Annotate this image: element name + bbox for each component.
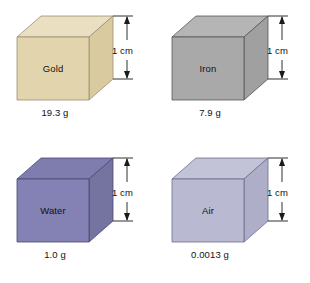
cube-cell-gold: Gold 1 cm 19.3 g: [0, 0, 155, 141]
cube-face-front-gold: [17, 37, 89, 100]
cube-dimension-label-iron: 1 cm: [267, 45, 288, 56]
cube-drawing-water: [0, 142, 155, 283]
cube-drawing-gold: [0, 0, 155, 141]
cube-face-front-iron: [172, 37, 244, 100]
cube-dimension-label-water: 1 cm: [112, 187, 133, 198]
cube-drawing-iron: [155, 0, 310, 141]
cube-mass-label-iron: 7.9 g: [172, 107, 248, 118]
cube-mass-label-air: 0.0013 g: [163, 249, 257, 260]
cube-drawing-air: [155, 142, 310, 283]
cube-mass-label-water: 1.0 g: [17, 249, 93, 260]
cube-cell-air: Air 1 cm 0.0013 g: [155, 142, 310, 283]
cube-face-front-air: [172, 179, 244, 242]
density-cube-figure: Gold 1 cm 19.3 g Iron 1 cm 7.9 g: [0, 0, 310, 283]
cube-dimension-label-air: 1 cm: [267, 187, 288, 198]
cube-face-front-water: [17, 179, 89, 242]
cube-mass-label-gold: 19.3 g: [17, 107, 93, 118]
cube-cell-iron: Iron 1 cm 7.9 g: [155, 0, 310, 141]
cube-dimension-label-gold: 1 cm: [112, 45, 133, 56]
cube-cell-water: Water 1 cm 1.0 g: [0, 142, 155, 283]
